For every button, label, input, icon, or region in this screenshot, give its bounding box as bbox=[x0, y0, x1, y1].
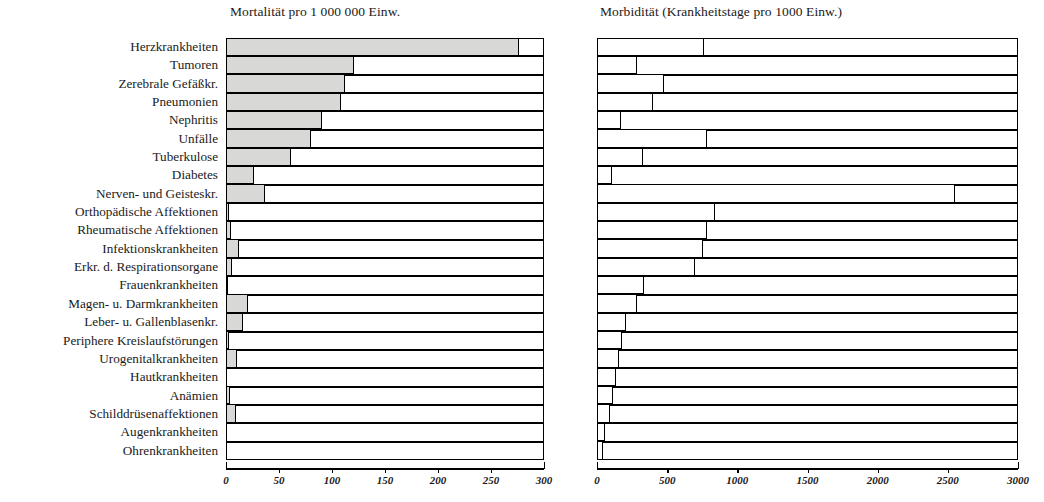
morbidity-bar-track bbox=[597, 313, 1018, 331]
table-row: Unfälle bbox=[0, 130, 1044, 148]
mortality-bar-track bbox=[226, 111, 544, 129]
category-label: Urogenitalkrankheiten bbox=[0, 350, 218, 368]
table-row: Ohrenkrankheiten bbox=[0, 442, 1044, 460]
mortality-bar-track bbox=[226, 185, 544, 203]
category-label: Pneumonien bbox=[0, 93, 218, 111]
axis-tick-label: 3000 bbox=[1007, 474, 1029, 486]
axis-tick bbox=[385, 468, 386, 473]
axis-tick bbox=[1018, 462, 1019, 469]
mortality-bar-track bbox=[226, 442, 544, 460]
table-row: Anämien bbox=[0, 387, 1044, 405]
mortality-bar-track bbox=[226, 350, 544, 368]
mortality-bar-track bbox=[226, 75, 544, 93]
axis-tick-label: 0 bbox=[223, 474, 229, 486]
mortality-bar-track bbox=[226, 166, 544, 184]
axis-tick-label: 300 bbox=[536, 474, 553, 486]
bar-rows-container: HerzkrankheitenTumorenZerebrale Gefäßkr.… bbox=[0, 38, 1044, 460]
morbidity-bar bbox=[597, 148, 643, 166]
axis-tick-label: 1000 bbox=[726, 474, 748, 486]
table-row: Schilddrüsenaffektionen bbox=[0, 405, 1044, 423]
mortality-bar bbox=[226, 239, 240, 257]
mortality-bar bbox=[226, 93, 342, 111]
axis-tick-label: 200 bbox=[430, 474, 447, 486]
morbidity-bar-track bbox=[597, 111, 1018, 129]
morbidity-bar-track bbox=[597, 203, 1018, 221]
mortality-bar-track bbox=[226, 130, 544, 148]
category-label: Diabetes bbox=[0, 166, 218, 184]
morbidity-panel-title: Morbidität (Krankheitstage pro 1000 Einw… bbox=[600, 4, 842, 20]
mortality-bar bbox=[226, 404, 237, 422]
morbidity-bar bbox=[597, 276, 645, 294]
table-row: Urogenitalkrankheiten bbox=[0, 350, 1044, 368]
mortality-bar bbox=[226, 313, 243, 331]
table-row: Infektionskrankheiten bbox=[0, 240, 1044, 258]
mortality-bar bbox=[226, 276, 228, 294]
category-label: Orthopädische Affektionen bbox=[0, 203, 218, 221]
morbidity-bar bbox=[597, 404, 610, 422]
morbidity-bar-track bbox=[597, 442, 1018, 460]
mortality-bar bbox=[226, 386, 230, 404]
table-row: Augenkrankheiten bbox=[0, 423, 1044, 441]
morbidity-bar bbox=[597, 423, 605, 441]
category-label: Nephritis bbox=[0, 111, 218, 129]
mortality-bar bbox=[226, 148, 292, 166]
axis-tick bbox=[226, 462, 227, 469]
morbidity-bar bbox=[597, 258, 695, 276]
table-row: Hautkrankheiten bbox=[0, 368, 1044, 386]
axis-tick bbox=[597, 462, 598, 469]
table-row: Diabetes bbox=[0, 166, 1044, 184]
table-row: Erkr. d. Respirationsorgane bbox=[0, 258, 1044, 276]
category-label: Hautkrankheiten bbox=[0, 368, 218, 386]
axis-tick-label: 0 bbox=[594, 474, 600, 486]
axis-tick bbox=[279, 468, 280, 473]
morbidity-bar bbox=[597, 93, 653, 111]
axis-tick bbox=[667, 468, 668, 473]
morbidity-bar bbox=[597, 184, 956, 202]
axis-tick-label: 1500 bbox=[797, 474, 819, 486]
chart-root: Mortalität pro 1 000 000 Einw. Morbiditä… bbox=[0, 0, 1044, 502]
morbidity-bar bbox=[597, 221, 708, 239]
morbidity-bar bbox=[597, 331, 622, 349]
category-label: Leber- u. Gallenblasenkr. bbox=[0, 313, 218, 331]
axis-tick-label: 2500 bbox=[937, 474, 959, 486]
mortality-bar bbox=[226, 349, 238, 367]
morbidity-bar-track bbox=[597, 93, 1018, 111]
morbidity-bar-track bbox=[597, 166, 1018, 184]
morbidity-bar-track bbox=[597, 295, 1018, 313]
morbidity-bar-track bbox=[597, 56, 1018, 74]
mortality-bar-track bbox=[226, 56, 544, 74]
morbidity-bar-track bbox=[597, 368, 1018, 386]
table-row: Pneumonien bbox=[0, 93, 1044, 111]
morbidity-bar-track bbox=[597, 332, 1018, 350]
morbidity-bar-track bbox=[597, 130, 1018, 148]
mortality-bar-track bbox=[226, 405, 544, 423]
axis-tick bbox=[332, 468, 333, 473]
morbidity-bar bbox=[597, 74, 664, 92]
morbidity-bar-track bbox=[597, 405, 1018, 423]
mortality-bar bbox=[226, 56, 354, 74]
mortality-bar-track bbox=[226, 295, 544, 313]
table-row: Leber- u. Gallenblasenkr. bbox=[0, 313, 1044, 331]
morbidity-bar bbox=[597, 129, 708, 147]
axis-tick bbox=[808, 468, 809, 473]
category-label: Unfälle bbox=[0, 130, 218, 148]
morbidity-bar bbox=[597, 349, 619, 367]
category-label: Magen- u. Darmkrankheiten bbox=[0, 295, 218, 313]
morbidity-bar-track bbox=[597, 148, 1018, 166]
category-label: Herzkrankheiten bbox=[0, 38, 218, 56]
morbidity-bar bbox=[597, 386, 613, 404]
morbidity-bar-track bbox=[597, 387, 1018, 405]
morbidity-bar-track bbox=[597, 221, 1018, 239]
category-label: Augenkrankheiten bbox=[0, 423, 218, 441]
category-label: Zerebrale Gefäßkr. bbox=[0, 75, 218, 93]
morbidity-bar-track bbox=[597, 38, 1018, 56]
mortality-bar-track bbox=[226, 276, 544, 294]
table-row: Orthopädische Affektionen bbox=[0, 203, 1044, 221]
table-row: Nephritis bbox=[0, 111, 1044, 129]
mortality-bar-track bbox=[226, 221, 544, 239]
morbidity-bar bbox=[597, 111, 622, 129]
mortality-bar-track bbox=[226, 148, 544, 166]
morbidity-bar bbox=[597, 203, 716, 221]
morbidity-bar bbox=[597, 441, 603, 459]
table-row: Herzkrankheiten bbox=[0, 38, 1044, 56]
